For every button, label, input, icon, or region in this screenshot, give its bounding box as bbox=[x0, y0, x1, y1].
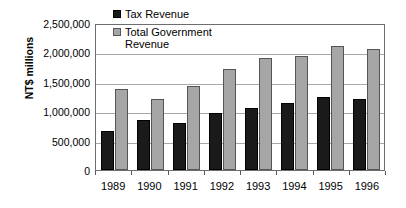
bar-tax-revenue[interactable] bbox=[317, 97, 330, 171]
bar-tax-revenue[interactable] bbox=[101, 131, 114, 170]
x-axis-tick bbox=[313, 171, 314, 175]
bar-total-government-revenue[interactable] bbox=[187, 86, 200, 170]
x-axis-tick-label: 1991 bbox=[168, 179, 204, 197]
x-axis-tick bbox=[95, 171, 96, 175]
x-axis-tick bbox=[240, 171, 241, 175]
x-axis-tick bbox=[349, 171, 350, 175]
legend-label: Tax Revenue bbox=[125, 8, 189, 20]
chart-legend: Tax RevenueTotal Government Revenue bbox=[113, 8, 293, 56]
bar-total-government-revenue[interactable] bbox=[115, 89, 128, 170]
x-axis-tick-label: 1996 bbox=[349, 179, 385, 197]
bar-tax-revenue[interactable] bbox=[173, 123, 186, 170]
legend-item[interactable]: Tax Revenue bbox=[113, 8, 293, 20]
y-axis-tick-label: 1,000,000 bbox=[18, 107, 90, 117]
legend-swatch-icon bbox=[113, 10, 121, 18]
x-axis-tick bbox=[385, 171, 386, 175]
x-axis-tick bbox=[168, 171, 169, 175]
bar-total-government-revenue[interactable] bbox=[223, 69, 236, 170]
legend-swatch-icon bbox=[113, 28, 121, 36]
x-axis-tick-label: 1994 bbox=[276, 179, 312, 197]
x-axis-tick-labels: 19891990199119921993199419951996 bbox=[95, 179, 385, 197]
bar-group bbox=[348, 25, 384, 170]
bar-total-government-revenue[interactable] bbox=[259, 58, 272, 170]
bar-chart: NT$ millions 2,500,0002,000,0001,500,000… bbox=[0, 0, 406, 208]
legend-label: Total Government Revenue bbox=[125, 26, 212, 50]
y-axis-tick-label: 2,500,000 bbox=[18, 19, 90, 29]
x-axis-tick-label: 1992 bbox=[204, 179, 240, 197]
legend-item[interactable]: Total Government Revenue bbox=[113, 26, 293, 50]
bar-total-government-revenue[interactable] bbox=[367, 49, 380, 170]
x-axis-ticks bbox=[95, 171, 385, 176]
bar-total-government-revenue[interactable] bbox=[331, 46, 344, 170]
bar-tax-revenue[interactable] bbox=[209, 113, 222, 170]
x-axis-tick bbox=[204, 171, 205, 175]
x-axis-tick bbox=[276, 171, 277, 175]
x-axis-tick-label: 1990 bbox=[131, 179, 167, 197]
y-axis-tick-label: 500,000 bbox=[18, 137, 90, 147]
bar-group bbox=[312, 25, 348, 170]
bar-tax-revenue[interactable] bbox=[245, 108, 258, 170]
y-axis-tick-label: 1,500,000 bbox=[18, 78, 90, 88]
bar-tax-revenue[interactable] bbox=[137, 120, 150, 170]
x-axis-tick-label: 1993 bbox=[240, 179, 276, 197]
bar-tax-revenue[interactable] bbox=[353, 99, 366, 170]
x-axis-tick-label: 1995 bbox=[313, 179, 349, 197]
bar-tax-revenue[interactable] bbox=[281, 103, 294, 170]
y-axis-tick-label: 2,000,000 bbox=[18, 48, 90, 58]
y-axis-tick-labels: 2,500,0002,000,0001,500,0001,000,000500,… bbox=[18, 24, 90, 171]
y-axis-tick-label: 0 bbox=[18, 166, 90, 176]
bar-total-government-revenue[interactable] bbox=[151, 99, 164, 170]
x-axis-tick bbox=[131, 171, 132, 175]
bar-total-government-revenue[interactable] bbox=[295, 56, 308, 170]
x-axis-tick-label: 1989 bbox=[95, 179, 131, 197]
